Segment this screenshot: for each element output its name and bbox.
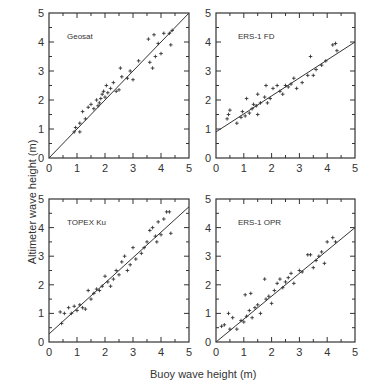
data-point bbox=[81, 110, 85, 114]
y-tick-label: 1 bbox=[38, 123, 44, 135]
data-point bbox=[106, 91, 110, 95]
data-point bbox=[109, 87, 113, 91]
y-tick-label: 2 bbox=[205, 94, 211, 106]
panel-label: ERS-1 FD bbox=[238, 32, 275, 41]
x-tick-label: 3 bbox=[130, 162, 136, 174]
data-point bbox=[120, 75, 124, 79]
x-tick-label: 4 bbox=[158, 346, 164, 358]
data-point bbox=[148, 61, 152, 65]
data-point bbox=[227, 113, 231, 117]
data-point bbox=[151, 66, 155, 70]
panel-label: Geosat bbox=[67, 32, 94, 41]
data-point bbox=[250, 316, 254, 320]
data-point bbox=[235, 327, 239, 331]
data-point bbox=[112, 81, 116, 85]
y-tick-label: 0 bbox=[38, 152, 44, 164]
x-tick-label: 3 bbox=[130, 346, 136, 358]
data-point bbox=[243, 114, 247, 118]
y-tick-label: 1 bbox=[38, 307, 44, 319]
scatter-panel-topex-ku: 012345012345TOPEX Ku bbox=[38, 193, 192, 358]
data-point bbox=[264, 84, 268, 88]
data-point bbox=[271, 87, 275, 91]
y-tick-label: 4 bbox=[205, 36, 211, 48]
data-point bbox=[248, 309, 252, 313]
data-point bbox=[123, 254, 127, 258]
data-point bbox=[275, 84, 279, 88]
x-tick-label: 4 bbox=[324, 346, 330, 358]
data-point bbox=[248, 111, 252, 115]
data-point bbox=[162, 217, 166, 221]
y-tick-label: 1 bbox=[205, 307, 211, 319]
x-tick-label: 2 bbox=[269, 162, 275, 174]
data-point bbox=[89, 103, 93, 107]
x-tick-label: 2 bbox=[102, 346, 108, 358]
x-tick-label: 1 bbox=[74, 346, 80, 358]
data-point bbox=[286, 276, 290, 280]
data-point bbox=[306, 74, 310, 78]
data-point bbox=[119, 66, 123, 70]
data-point bbox=[154, 234, 158, 238]
data-point bbox=[86, 289, 90, 293]
data-point bbox=[140, 252, 144, 256]
scatter-grid: 012345012345Geosat012345012345ERS-1 FD01… bbox=[0, 0, 368, 392]
data-point bbox=[228, 327, 232, 331]
data-point bbox=[156, 42, 160, 46]
data-point bbox=[273, 289, 277, 293]
data-point bbox=[312, 74, 316, 78]
x-tick-label: 5 bbox=[186, 346, 192, 358]
panel-label: TOPEX Ku bbox=[67, 218, 106, 227]
y-tick-label: 0 bbox=[38, 336, 44, 348]
data-point bbox=[241, 110, 245, 114]
data-point bbox=[148, 229, 152, 233]
y-tick-label: 4 bbox=[38, 36, 44, 48]
data-point bbox=[131, 78, 135, 82]
data-point bbox=[156, 220, 160, 224]
data-point bbox=[309, 253, 313, 257]
data-point bbox=[245, 97, 249, 101]
x-tick-label: 0 bbox=[46, 346, 52, 358]
x-tick-label: 4 bbox=[324, 162, 330, 174]
data-point bbox=[78, 303, 82, 307]
data-point bbox=[155, 240, 159, 244]
data-point bbox=[162, 32, 166, 36]
data-point bbox=[152, 33, 156, 37]
data-point bbox=[325, 240, 329, 244]
data-point bbox=[169, 43, 173, 47]
y-tick-label: 2 bbox=[38, 94, 44, 106]
data-point bbox=[231, 316, 235, 320]
y-tick-label: 3 bbox=[205, 65, 211, 77]
x-tick-label: 3 bbox=[296, 162, 302, 174]
data-point bbox=[63, 312, 67, 316]
data-point bbox=[278, 277, 282, 281]
data-point bbox=[289, 272, 293, 276]
data-point bbox=[147, 37, 151, 41]
data-point bbox=[235, 121, 239, 125]
data-point bbox=[112, 277, 116, 281]
x-tick-label: 4 bbox=[158, 162, 164, 174]
data-point bbox=[275, 282, 279, 286]
data-point bbox=[103, 274, 107, 278]
data-point bbox=[131, 246, 135, 250]
scatter-panel-ers-1-fd: 012345012345ERS-1 FD bbox=[205, 7, 358, 174]
data-point bbox=[281, 92, 285, 96]
data-point bbox=[105, 84, 109, 88]
x-tick-label: 1 bbox=[74, 162, 80, 174]
data-point bbox=[151, 226, 155, 230]
data-point bbox=[126, 76, 130, 80]
x-tick-label: 5 bbox=[186, 162, 192, 174]
data-point bbox=[270, 302, 274, 306]
y-tick-label: 2 bbox=[205, 279, 211, 291]
data-point bbox=[89, 297, 93, 301]
data-point bbox=[320, 250, 324, 254]
data-point bbox=[292, 76, 296, 80]
data-point bbox=[292, 282, 296, 286]
data-point bbox=[168, 210, 172, 214]
x-tick-label: 0 bbox=[213, 346, 219, 358]
fit-line bbox=[216, 228, 355, 342]
data-point bbox=[169, 232, 173, 236]
data-point bbox=[256, 113, 260, 117]
data-point bbox=[117, 273, 121, 277]
x-tick-label: 1 bbox=[241, 162, 247, 174]
y-tick-label: 5 bbox=[205, 193, 211, 205]
data-point bbox=[58, 310, 62, 314]
